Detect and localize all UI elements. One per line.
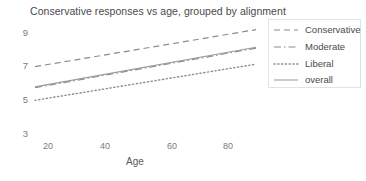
- legend-line-solid-icon: [273, 74, 299, 86]
- chart-legend: Conservative Moderate Liberal: [268, 19, 361, 88]
- legend-item-liberal: Liberal: [269, 55, 360, 72]
- chart-container: Conservative responses vs age, grouped b…: [0, 0, 366, 181]
- series-line-moderate: [35, 48, 256, 88]
- series-line-overall: [35, 47, 256, 87]
- legend-label-moderate: Moderate: [305, 41, 345, 52]
- legend-item-overall: overall: [269, 71, 360, 88]
- legend-item-moderate: Moderate: [269, 38, 360, 55]
- legend-label-liberal: Liberal: [305, 58, 334, 69]
- legend-label-overall: overall: [305, 74, 333, 85]
- series-line-conservative: [35, 30, 256, 67]
- legend-item-conservative: Conservative: [269, 21, 360, 38]
- legend-line-dashdot-icon: [273, 41, 299, 53]
- legend-line-dotted-icon: [273, 58, 299, 70]
- legend-line-dashed-icon: [273, 24, 299, 36]
- legend-label-conservative: Conservative: [305, 24, 360, 35]
